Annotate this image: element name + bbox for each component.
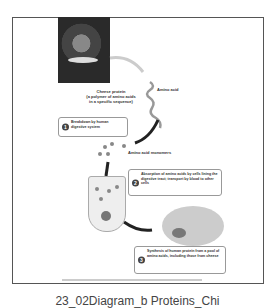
step-1-number: 1 [62,124,69,131]
figure-caption: 23_02Diagram_b Proteins_Chi [0,294,275,308]
intestinal-cell [88,176,126,232]
amino-acid-dot [103,145,107,149]
amino-acid-dot [95,187,99,191]
amino-acid-dot [99,197,103,201]
amino-acid-dot [98,152,102,156]
step-3-box: 3 Synthesis of human protein from a pool… [134,246,226,274]
step-2-box: 2 Absorption of amino acids by cells lin… [128,169,222,196]
cheese-protein-label: Cheese protein (a polymer of amino acids… [80,89,142,104]
body-cell [162,206,224,246]
amino-acid-dot [122,144,126,148]
step-1-text: Breakdown by human digestive system [71,120,108,129]
step-2-text: Absorption of amino acids by cells linin… [141,172,217,185]
amino-acid-dot [115,185,119,189]
amino-acid-label: Amino acid [157,87,179,92]
copyright-line [62,279,202,281]
nucleus-icon [172,228,186,238]
amino-acid-dot [107,189,111,193]
step-3-number: 3 [138,257,145,264]
step-2-number: 2 [132,179,139,186]
step-1-box: 1 Breakdown by human digestive system [58,117,128,137]
amino-acid-dot [106,152,110,156]
cheese-protein-line-3: in a specific sequence) [80,99,142,104]
nucleus-icon [101,211,111,221]
step-3-text: Synthesis of human protein from a pool o… [147,249,219,258]
amino-acid-dot [110,142,114,146]
amino-acid-monomers-label: Amino acid monomers [128,150,171,155]
